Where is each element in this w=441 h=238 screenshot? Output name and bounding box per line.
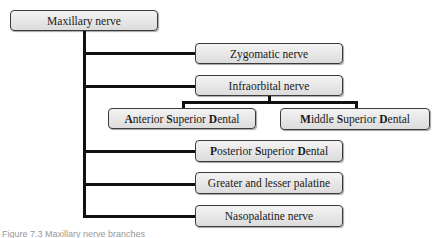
node-label: Posterior Superior Dental: [210, 145, 328, 157]
figure-caption: Figure 7.3 Maxillary nerve branches: [2, 229, 145, 238]
node-label: Infraorbital nerve: [229, 80, 310, 92]
middle-superior-dental-node: Middle Superior Dental: [280, 108, 430, 130]
connector-posterior: [83, 150, 195, 153]
greater-lesser-palatine-node: Greater and lesser palatine: [195, 172, 343, 194]
node-label: Middle Superior Dental: [300, 113, 410, 125]
connector-palatine: [83, 183, 195, 186]
connector-nasopalatine: [83, 215, 195, 218]
node-label: Greater and lesser palatine: [208, 177, 330, 189]
anterior-drop: [182, 101, 185, 108]
node-label: Nasopalatine nerve: [225, 210, 313, 222]
infraorbital-split-bar: [182, 101, 357, 104]
trunk-line: [83, 31, 86, 217]
maxillary-nerve-node: Maxillary nerve: [10, 10, 158, 31]
middle-drop: [355, 101, 358, 108]
node-label: Zygomatic nerve: [230, 48, 308, 60]
node-label: Maxillary nerve: [47, 15, 121, 27]
zygomatic-nerve-node: Zygomatic nerve: [195, 43, 343, 64]
posterior-superior-dental-node: Posterior Superior Dental: [195, 140, 343, 162]
connector-infraorbital: [83, 85, 195, 88]
nasopalatine-nerve-node: Nasopalatine nerve: [195, 205, 343, 227]
connector-zygomatic: [83, 52, 195, 55]
anterior-superior-dental-node: Anterior Superior Dental: [108, 108, 256, 129]
node-label: Anterior Superior Dental: [124, 113, 239, 125]
infraorbital-nerve-node: Infraorbital nerve: [195, 75, 343, 96]
